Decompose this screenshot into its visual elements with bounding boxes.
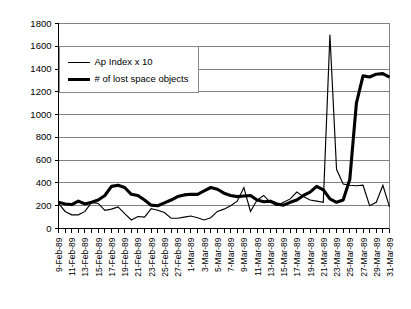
x-axis-tick-label: 11-Mar-89 <box>253 237 263 276</box>
series-line-lost-space-objects <box>59 74 390 206</box>
y-axis-tick-label: 1200 <box>30 86 51 97</box>
y-axis-tick-label: 1400 <box>30 63 51 74</box>
x-axis-tick-label: 15-Feb-89 <box>94 237 104 276</box>
x-axis-tick-label: 7-Mar-89 <box>226 237 236 272</box>
x-axis-tick-label: 3-Mar-89 <box>200 237 210 272</box>
y-axis-tick-label: 1800 <box>30 18 51 29</box>
y-axis-tick-label: 1000 <box>30 109 51 120</box>
x-axis-tick-label: 31-Mar-89 <box>385 237 395 276</box>
x-axis-tick-label: 9-Mar-89 <box>239 237 249 272</box>
x-axis-tick-label: 27-Mar-89 <box>359 237 369 276</box>
legend-label-lost-space-objects: # of lost space objects <box>95 73 189 84</box>
x-axis-tick-label: 1-Mar-89 <box>186 237 196 272</box>
x-axis-tick-label: 29-Mar-89 <box>372 237 382 276</box>
x-axis-tick-label: 9-Feb-89 <box>54 237 64 272</box>
y-axis-tick-label: 800 <box>36 131 52 142</box>
chart-container: 0200400600800100012001400160018009-Feb-8… <box>0 0 411 309</box>
y-axis-tick-label: 1600 <box>30 40 51 51</box>
x-axis-tick-label: 11-Feb-89 <box>67 237 77 276</box>
x-axis-tick-label: 13-Feb-89 <box>80 237 90 276</box>
y-axis-tick-label: 600 <box>36 154 52 165</box>
x-axis-tick-label: 17-Mar-89 <box>292 237 302 276</box>
x-axis-tick-label: 23-Mar-89 <box>332 237 342 276</box>
y-axis-tick-label: 400 <box>36 177 52 188</box>
x-axis-tick-label: 27-Feb-89 <box>173 237 183 276</box>
x-axis-tick-label: 13-Mar-89 <box>266 237 276 276</box>
x-axis-tick-label: 5-Mar-89 <box>213 237 223 272</box>
line-chart: 0200400600800100012001400160018009-Feb-8… <box>0 0 411 309</box>
x-axis-tick-label: 21-Mar-89 <box>319 237 329 276</box>
x-axis-tick-label: 25-Feb-89 <box>160 237 170 276</box>
x-axis-tick-label: 19-Mar-89 <box>306 237 316 276</box>
x-axis-tick-label: 17-Feb-89 <box>107 237 117 276</box>
y-axis-tick-label: 200 <box>36 200 52 211</box>
legend-label-ap-index: Ap Index x 10 <box>95 56 153 67</box>
x-axis-tick-label: 21-Feb-89 <box>133 237 143 276</box>
legend-box <box>60 47 199 93</box>
x-axis-tick-label: 23-Feb-89 <box>147 237 157 276</box>
x-axis-tick-label: 15-Mar-89 <box>279 237 289 276</box>
x-axis-tick-label: 19-Feb-89 <box>120 237 130 276</box>
y-axis-tick-label: 0 <box>46 223 51 234</box>
x-axis-tick-label: 25-Mar-89 <box>345 237 355 276</box>
